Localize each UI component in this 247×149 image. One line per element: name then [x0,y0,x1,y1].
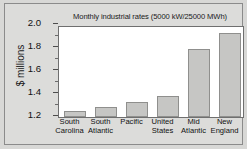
y-tick-label: 2.0 [11,18,41,28]
x-tick-label-south-atlantic: South Atlantic [85,117,116,135]
bar-series [59,27,243,117]
plot-area [58,26,244,118]
y-tick-major [53,23,58,24]
figure-frame: Monthly industrial rates (5000 kW/25000 … [4,3,243,145]
y-tick-label: 1.4 [11,87,41,97]
x-tick-label-new-england: New England [209,117,240,135]
y-tick-label: 1.8 [11,41,41,51]
bar-new-england [219,33,241,117]
x-tick-label-south-carolina: South Carolina [54,117,85,135]
y-tick-label: 1.6 [11,64,41,74]
bar-mid-atlantic [188,49,210,117]
chart-title: Monthly industrial rates (5000 kW/25000 … [52,12,247,21]
x-tick-label-mid-atlantic: Mid Atlantic [178,117,209,135]
bar-united-states [157,96,179,117]
bar-south-atlantic [95,107,117,117]
x-tick-label-pacific: Pacific [116,117,147,126]
chart-figure: Monthly industrial rates (5000 kW/25000 … [0,0,247,149]
x-tick-label-united-states: United States [147,117,178,135]
bar-pacific [126,102,148,117]
y-tick-label: 1.2 [11,110,41,120]
